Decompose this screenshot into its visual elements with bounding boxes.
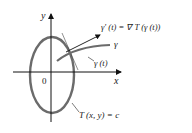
origin-label: 0 — [42, 76, 47, 86]
x-axis-label: x — [113, 75, 119, 86]
gradient-level-curve-diagram: y x 0 γ′ (t) = ∇ T (γ (t)) γ γ (t) T (x,… — [0, 0, 192, 133]
level-curve-leader — [72, 103, 79, 112]
gradient-label: γ′ (t) = ∇ T (γ (t)) — [101, 22, 160, 32]
point-gamma-t-label: γ (t) — [94, 58, 108, 68]
level-curve-label: T (x, y) = c — [79, 110, 119, 120]
y-axis-label: y — [40, 10, 46, 21]
level-curve-ellipse — [30, 37, 74, 113]
curve-gamma-label: γ — [114, 39, 118, 49]
